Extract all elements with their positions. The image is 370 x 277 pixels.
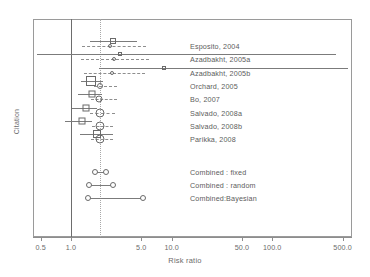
x-axis-title: Risk ratio: [0, 256, 370, 265]
study-estimate-circle: [112, 57, 116, 61]
reference-line-null-effect: [71, 19, 72, 237]
combined-interval-endpoint: [140, 195, 146, 201]
combined-interval-endpoint: [92, 169, 98, 175]
x-tick: [272, 237, 273, 241]
x-tick: [242, 237, 243, 241]
study-estimate-circle: [95, 96, 102, 103]
x-tick-label: 50.0: [235, 243, 249, 252]
combined-label: Combined:Bayesian: [190, 194, 257, 203]
study-estimate-circle: [108, 44, 112, 48]
study-estimate-square: [89, 91, 96, 98]
x-tick-label: 100.0: [263, 243, 282, 252]
x-tick: [141, 237, 142, 241]
x-tick-label: 1.0: [66, 243, 76, 252]
combined-interval-endpoint: [86, 182, 92, 188]
x-tick-label: 500.0: [333, 243, 352, 252]
combined-interval-endpoint: [110, 182, 116, 188]
study-label: Esposito, 2004: [190, 42, 240, 51]
study-estimate-circle: [97, 83, 103, 89]
study-estimate-circle: [96, 121, 105, 130]
combined-interval-line: [88, 198, 143, 199]
x-tick: [41, 237, 42, 241]
combined-interval-endpoint: [103, 169, 109, 175]
study-estimate-square: [83, 104, 90, 111]
study-label: Salvado, 2008a: [190, 108, 242, 117]
study-label: Bo, 2007: [190, 95, 220, 104]
y-axis-title: Citation: [13, 92, 20, 152]
x-axis-line: [33, 237, 352, 238]
study-estimate-circle: [96, 135, 105, 144]
combined-interval-endpoint: [85, 195, 91, 201]
credible-interval-line: [82, 46, 146, 47]
study-label: Parikka, 2008: [190, 135, 236, 144]
study-label: Salvado, 2008b: [190, 121, 242, 130]
x-tick-label: 5.0: [136, 243, 146, 252]
study-estimate-square: [78, 117, 85, 124]
study-estimate-square: [86, 76, 96, 86]
x-tick: [172, 237, 173, 241]
study-label: Azadbakht, 2005b: [190, 68, 250, 77]
x-tick-label: 0.5: [35, 243, 45, 252]
x-tick: [343, 237, 344, 241]
study-label: Orchard, 2005: [190, 81, 238, 90]
x-tick: [71, 237, 72, 241]
study-estimate-circle: [96, 108, 105, 117]
study-estimate-square: [118, 52, 122, 56]
confidence-interval-line: [37, 54, 336, 55]
study-estimate-circle: [110, 71, 114, 75]
study-label: Azadbakht, 2005a: [190, 55, 250, 64]
study-estimate-square: [162, 66, 166, 70]
credible-interval-line: [84, 73, 145, 74]
x-tick-label: 10.0: [164, 243, 178, 252]
forest-plot-figure: Citation Esposito, 2004Azadbakht, 2005aA…: [0, 0, 370, 277]
combined-label: Combined : fixed: [190, 168, 246, 177]
combined-label: Combined : random: [190, 181, 256, 190]
